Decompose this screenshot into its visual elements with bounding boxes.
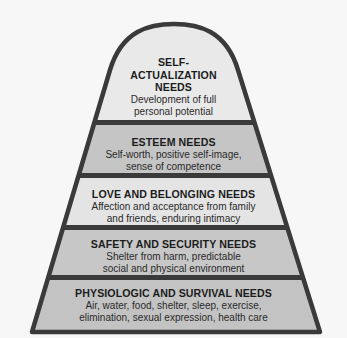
level-love-belonging: LOVE AND BELONGING NEEDS Affection and a…	[0, 188, 347, 226]
divider-1	[0, 120, 347, 125]
level-title: NEEDS	[0, 81, 347, 94]
divider-2	[0, 173, 347, 178]
level-title: LOVE AND BELONGING NEEDS	[0, 188, 347, 201]
level-description: social and physical environment	[0, 263, 347, 276]
level-description: and friends, enduring intimacy	[0, 213, 347, 226]
level-physiologic-survival: PHYSIOLOGIC AND SURVIVAL NEEDS Air, wate…	[0, 287, 347, 325]
level-title: SELF-	[0, 56, 347, 69]
level-title: ESTEEM NEEDS	[0, 136, 347, 149]
level-description: sense of competence	[0, 161, 347, 174]
divider-3	[0, 225, 347, 230]
level-description: Shelter from harm, predictable	[0, 251, 347, 264]
level-self-actualization: SELF- ACTUALIZATION NEEDS Development of…	[0, 56, 347, 119]
divider-4	[0, 275, 347, 280]
level-title: PHYSIOLOGIC AND SURVIVAL NEEDS	[0, 287, 347, 300]
level-description: Self-worth, positive self-image,	[0, 149, 347, 162]
level-description: personal potential	[0, 106, 347, 119]
level-title: ACTUALIZATION	[0, 69, 347, 82]
level-description: Air, water, food, shelter, sleep, exerci…	[0, 300, 347, 313]
level-esteem: ESTEEM NEEDS Self-worth, positive self-i…	[0, 136, 347, 174]
level-safety-security: SAFETY AND SECURITY NEEDS Shelter from h…	[0, 238, 347, 276]
level-title: SAFETY AND SECURITY NEEDS	[0, 238, 347, 251]
level-description: Development of full	[0, 94, 347, 107]
level-description: elimination, sexual expression, health c…	[0, 312, 347, 325]
level-description: Affection and acceptance from family	[0, 201, 347, 214]
